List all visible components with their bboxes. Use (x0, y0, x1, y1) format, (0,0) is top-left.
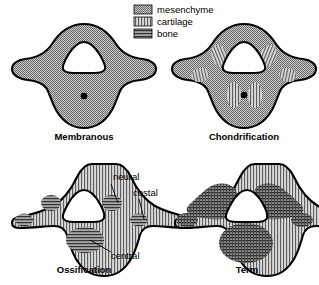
bone-center-costal-left (15, 214, 33, 227)
cartilage-center-central-left (227, 82, 241, 108)
bone-center-central (66, 227, 104, 253)
legend-swatch-cartilage (134, 17, 152, 26)
callout-label-costal: costal (133, 187, 158, 198)
cartilage-center-central-right (248, 82, 262, 108)
legend-label-cartilage: cartilage (157, 16, 193, 27)
bone-center-central-term (219, 223, 273, 263)
legend-item-bone: bone (134, 28, 178, 39)
legend-label-bone: bone (157, 28, 178, 39)
caption-ossification: Ossification (57, 264, 112, 275)
legend: mesenchyme cartilage bone (134, 4, 214, 39)
legend-swatch-bone (134, 29, 152, 38)
notochord-dot-chondrification (241, 92, 248, 99)
callout-label-central: central (111, 250, 140, 261)
panel-chondrification: Chondrification (172, 24, 316, 142)
caption-membranous: Membranous (54, 131, 113, 142)
legend-item-cartilage: cartilage (134, 16, 193, 27)
caption-chondrification: Chondrification (209, 131, 279, 142)
bone-center-neural-right (102, 195, 122, 211)
panel-ossification: Ossification (12, 164, 196, 276)
vertebral-development-figure: mesenchyme cartilage bone Membranous Cho… (0, 0, 319, 285)
figure-canvas: mesenchyme cartilage bone Membranous Cho… (0, 0, 319, 285)
legend-item-mesenchyme: mesenchyme (134, 4, 214, 15)
caption-term: Term (236, 264, 259, 275)
callout-label-neural: neural (113, 171, 139, 182)
bone-center-costal-left-term (176, 213, 198, 227)
bone-center-costal-right (130, 214, 148, 227)
legend-swatch-mesenchyme (134, 5, 152, 14)
panel-membranous: Membranous (12, 24, 156, 142)
notochord-dot-membranous (81, 93, 88, 100)
legend-label-mesenchyme: mesenchyme (157, 4, 214, 15)
bone-center-costal-right-term (291, 213, 313, 227)
panel-term: Term (175, 164, 319, 276)
vertebra-body-membranous (12, 24, 156, 128)
bone-center-neural-left (41, 195, 61, 211)
